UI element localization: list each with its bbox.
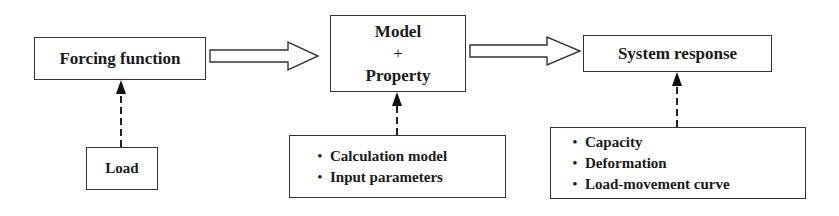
property-label: Property — [366, 65, 431, 87]
forcing-function-box: Forcing function — [34, 37, 206, 80]
list-item-calculation-model: Calculation model — [310, 146, 505, 167]
calculation-box: Calculation model Input parameters — [289, 135, 506, 198]
block-arrow-forcing-to-model — [210, 42, 318, 70]
load-box: Load — [86, 147, 158, 190]
model-property-box: Model + Property — [330, 15, 466, 92]
list-item-deformation: Deformation — [565, 153, 805, 174]
list-item-load-movement-curve: Load-movement curve — [565, 174, 805, 195]
model-label: Model — [375, 21, 421, 43]
block-arrow-model-to-response — [470, 37, 580, 65]
list-item-input-parameters: Input parameters — [310, 167, 505, 188]
plus-label: + — [393, 43, 403, 65]
system-response-box: System response — [583, 35, 772, 72]
dashed-arrow-outputs-to-response — [672, 72, 682, 127]
forcing-function-label: Forcing function — [59, 49, 180, 69]
dashed-arrow-calc-to-model — [392, 92, 402, 135]
dashed-arrow-load-to-forcing — [116, 80, 126, 147]
response-outputs-box: Capacity Deformation Load-movement curve — [550, 127, 806, 199]
load-label: Load — [105, 160, 138, 177]
system-response-label: System response — [618, 44, 737, 64]
list-item-capacity: Capacity — [565, 132, 805, 153]
